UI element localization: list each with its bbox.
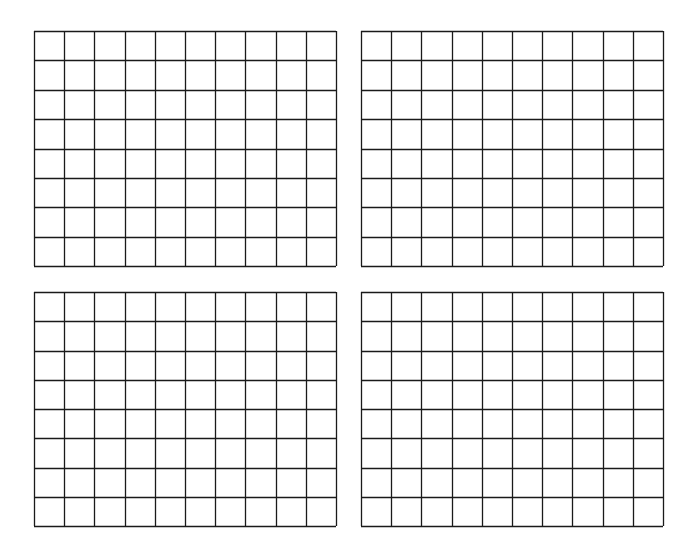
grid-bottom-right xyxy=(361,292,663,526)
grid-bottom-left xyxy=(34,292,336,526)
grid-lines xyxy=(34,31,336,266)
grid-lines xyxy=(34,292,336,526)
grid-top-left xyxy=(34,31,336,266)
grid-top-right xyxy=(361,31,663,266)
grid-lines xyxy=(361,292,663,526)
grid-lines xyxy=(361,31,663,266)
